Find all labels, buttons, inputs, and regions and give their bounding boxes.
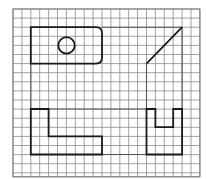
- drawing-svg: [0, 0, 207, 179]
- grid-border: [13, 9, 200, 177]
- grid-drawing-canvas: [0, 0, 207, 179]
- grid-lines: [13, 9, 200, 177]
